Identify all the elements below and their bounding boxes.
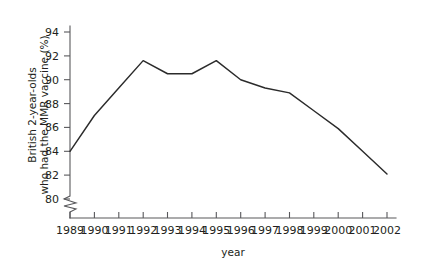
y-axis-ticks — [64, 32, 70, 199]
chart-container: 80 82 84 86 88 90 92 94 — [0, 0, 428, 275]
data-series-line — [70, 61, 387, 174]
x-axis-tick-labels: 1989 1990 1991 1992 1993 1994 1995 1996 … — [56, 224, 401, 237]
x-tick-label: 2002 — [373, 224, 401, 237]
y-axis-break-icon — [64, 196, 76, 212]
x-axis-title: year — [221, 246, 245, 258]
y-axis-title-line2: who had the MMR vaccine (%) — [38, 35, 50, 194]
x-axis-ticks — [70, 212, 387, 218]
line-chart: 80 82 84 86 88 90 92 94 — [0, 0, 428, 275]
y-axis-title-line1: British 2-year-olds — [26, 67, 38, 162]
